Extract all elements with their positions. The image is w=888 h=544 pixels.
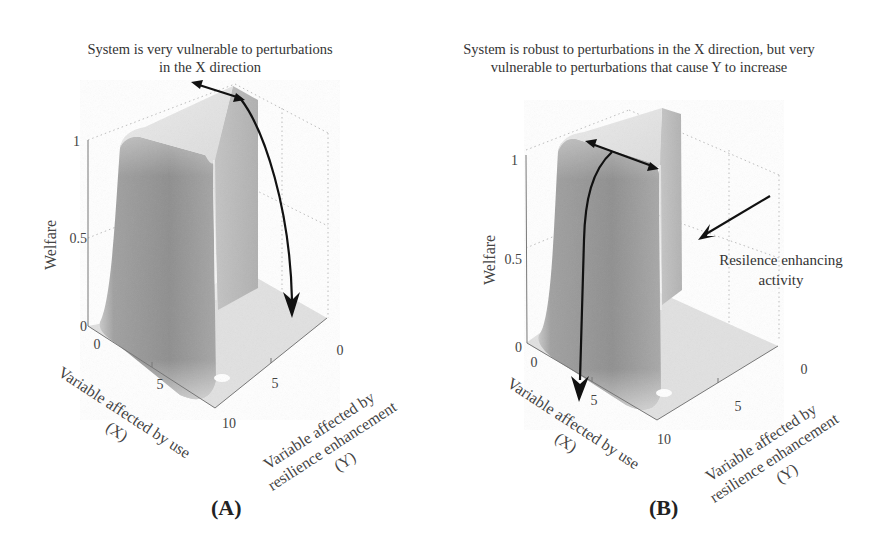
resilience-annotation: Resilence enhancing activity <box>706 250 856 290</box>
y-tick-5: 5 <box>272 376 279 391</box>
panel-b-label: (B) <box>649 495 678 521</box>
y-tick-5: 5 <box>735 399 742 414</box>
z-tick-0: 0 <box>80 319 87 334</box>
panel-a-label: (A) <box>211 495 242 521</box>
x-tick-10: 10 <box>657 432 671 447</box>
x-tick-5: 5 <box>157 377 164 392</box>
z-axis-label: Welfare <box>42 220 59 270</box>
surface-plot-a: 1 0.5 0 0 5 10 0 5 Variable affected by … <box>0 0 444 544</box>
panel-b: System is robust to perturbations in the… <box>444 0 888 544</box>
z-tick-0: 0 <box>515 340 522 355</box>
x-tick-0: 0 <box>531 355 538 370</box>
x-tick-5: 5 <box>591 393 598 408</box>
z-tick-1: 1 <box>511 153 518 168</box>
z-axis-label: Welfare <box>481 235 498 285</box>
z-tick-1: 1 <box>73 134 80 149</box>
x-tick-0: 0 <box>94 337 101 352</box>
y-tick-0: 0 <box>801 362 808 377</box>
z-tick-0.5: 0.5 <box>70 231 88 246</box>
y-tick-0: 0 <box>337 343 344 358</box>
x-tick-10: 10 <box>222 416 236 431</box>
z-tick-0.5: 0.5 <box>505 252 523 267</box>
panel-a: System is very vulnerable to perturbatio… <box>0 0 444 544</box>
